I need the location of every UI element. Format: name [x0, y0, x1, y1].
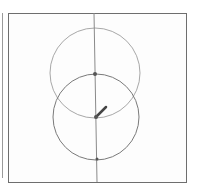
geometry-drawing[interactable]	[0, 0, 197, 196]
radius-segment-handle[interactable]	[96, 107, 106, 117]
bottom-point[interactable]	[96, 158, 99, 161]
center-point[interactable]	[94, 115, 98, 119]
vertical-axis-line[interactable]	[94, 13, 97, 182]
upper-point[interactable]	[93, 72, 97, 76]
